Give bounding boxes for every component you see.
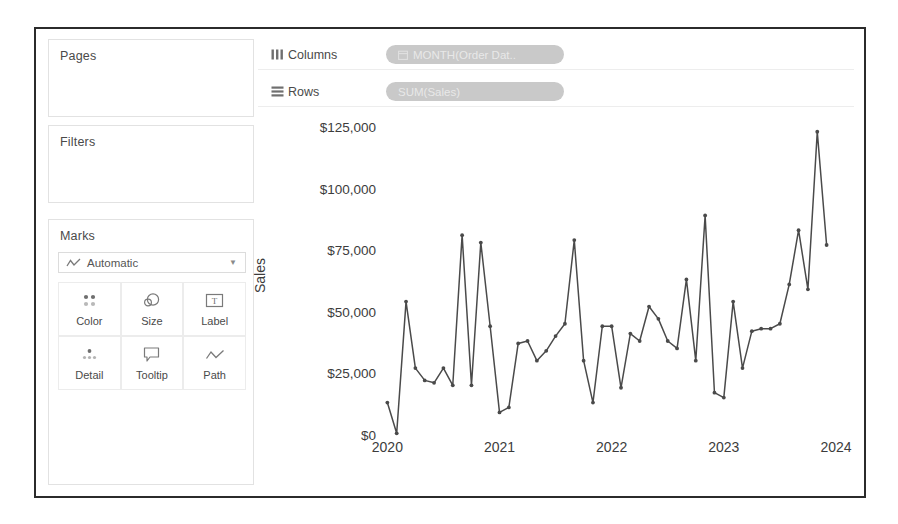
data-point[interactable] [815, 130, 819, 134]
data-point[interactable] [787, 282, 791, 286]
left-panel: Pages Filters Marks Automatic ▼ [48, 39, 254, 485]
data-point[interactable] [694, 359, 698, 363]
rows-pill[interactable]: SUM(Sales) [386, 82, 564, 101]
data-point[interactable] [731, 300, 735, 304]
x-axis-ticks: 20202021202220232024 [378, 439, 864, 479]
marks-card-title: Marks [49, 220, 253, 243]
y-axis-tick-label: $50,000 [276, 305, 376, 320]
data-point[interactable] [516, 342, 520, 346]
data-point[interactable] [488, 324, 492, 328]
data-point[interactable] [498, 410, 502, 414]
y-axis-ticks: $0$25,000$50,000$75,000$100,000$125,000 [268, 117, 376, 437]
columns-icon [266, 49, 288, 60]
data-point[interactable] [460, 233, 464, 237]
data-point[interactable] [413, 366, 417, 370]
marks-button-label: Path [203, 369, 226, 381]
marks-type-value: Automatic [87, 257, 229, 269]
right-panel: Columns MONTH(Order Dat.. [258, 29, 864, 496]
columns-shelf[interactable]: Columns MONTH(Order Dat.. [258, 40, 854, 70]
data-point[interactable] [806, 287, 810, 291]
data-point[interactable] [572, 238, 576, 242]
data-point[interactable] [610, 324, 614, 328]
data-point[interactable] [600, 324, 604, 328]
detail-dots-icon [80, 346, 99, 364]
marks-button-size[interactable]: Size [121, 282, 184, 336]
data-point[interactable] [722, 396, 726, 400]
worksheet-frame: Pages Filters Marks Automatic ▼ [34, 27, 866, 498]
data-point[interactable] [825, 243, 829, 247]
filters-card-title: Filters [49, 126, 253, 149]
color-dots-icon [81, 292, 98, 310]
data-point[interactable] [563, 322, 567, 326]
sales-line-series [378, 117, 864, 437]
pages-card[interactable]: Pages [48, 39, 254, 117]
marks-buttons-grid: Color Size [58, 282, 246, 390]
data-point[interactable] [582, 359, 586, 363]
data-point[interactable] [451, 383, 455, 387]
chevron-down-icon[interactable]: ▼ [229, 259, 237, 267]
rows-pill-text: SUM(Sales) [398, 86, 460, 98]
data-point[interactable] [647, 305, 651, 309]
calendar-icon [398, 50, 408, 60]
size-circles-icon [142, 292, 161, 310]
label-text-icon: T [205, 292, 224, 310]
marks-button-color[interactable]: Color [58, 282, 121, 336]
columns-pill[interactable]: MONTH(Order Dat.. [386, 45, 564, 64]
rows-shelf[interactable]: Rows SUM(Sales) [258, 77, 854, 107]
y-axis-title: Sales [252, 258, 268, 293]
data-point[interactable] [750, 329, 754, 333]
data-point[interactable] [423, 378, 427, 382]
data-point[interactable] [713, 391, 717, 395]
filters-card[interactable]: Filters [48, 125, 254, 203]
data-point[interactable] [442, 366, 446, 370]
data-point[interactable] [385, 401, 389, 405]
sales-line [387, 132, 826, 434]
data-point[interactable] [526, 339, 530, 343]
marks-type-select[interactable]: Automatic ▼ [58, 252, 246, 273]
data-point[interactable] [628, 332, 632, 336]
marks-button-path[interactable]: Path [183, 336, 246, 390]
data-point[interactable] [591, 401, 595, 405]
data-point[interactable] [554, 334, 558, 338]
data-point[interactable] [507, 406, 511, 410]
marks-card: Marks Automatic ▼ [48, 219, 254, 485]
data-point[interactable] [535, 359, 539, 363]
data-point[interactable] [666, 339, 670, 343]
data-point[interactable] [638, 339, 642, 343]
data-point[interactable] [685, 278, 689, 282]
x-axis-tick-label: 2020 [362, 439, 412, 455]
data-point[interactable] [479, 241, 483, 245]
data-point[interactable] [656, 317, 660, 321]
data-point[interactable] [404, 300, 408, 304]
data-point[interactable] [470, 383, 474, 387]
data-point[interactable] [619, 386, 623, 390]
y-axis-tick-label: $75,000 [276, 243, 376, 258]
rows-shelf-label: Rows [288, 85, 374, 99]
y-axis-tick-label: $100,000 [276, 182, 376, 197]
path-line-icon [205, 346, 225, 364]
data-point[interactable] [544, 349, 548, 353]
chart-area: Sales $0$25,000$50,000$75,000$100,000$12… [258, 117, 864, 496]
data-point[interactable] [395, 431, 399, 435]
data-point[interactable] [769, 327, 773, 331]
marks-button-label: Detail [75, 369, 103, 381]
data-point[interactable] [675, 346, 679, 350]
marks-button-detail[interactable]: Detail [58, 336, 121, 390]
x-axis-tick-label: 2024 [811, 439, 861, 455]
data-point[interactable] [741, 366, 745, 370]
data-point[interactable] [797, 228, 801, 232]
data-point[interactable] [432, 381, 436, 385]
columns-shelf-label: Columns [288, 48, 374, 62]
tooltip-bubble-icon [142, 346, 161, 364]
pages-card-title: Pages [49, 40, 253, 63]
marks-button-label: Tooltip [136, 369, 168, 381]
y-axis-tick-label: $0 [276, 428, 376, 443]
marks-button-label[interactable]: T Label [183, 282, 246, 336]
y-axis-tick-label: $25,000 [276, 366, 376, 381]
data-point[interactable] [778, 322, 782, 326]
marks-button-label: Size [141, 315, 162, 327]
marks-button-tooltip[interactable]: Tooltip [121, 336, 184, 390]
data-point[interactable] [759, 327, 763, 331]
data-point[interactable] [703, 214, 707, 218]
y-axis-tick-label: $125,000 [276, 120, 376, 135]
